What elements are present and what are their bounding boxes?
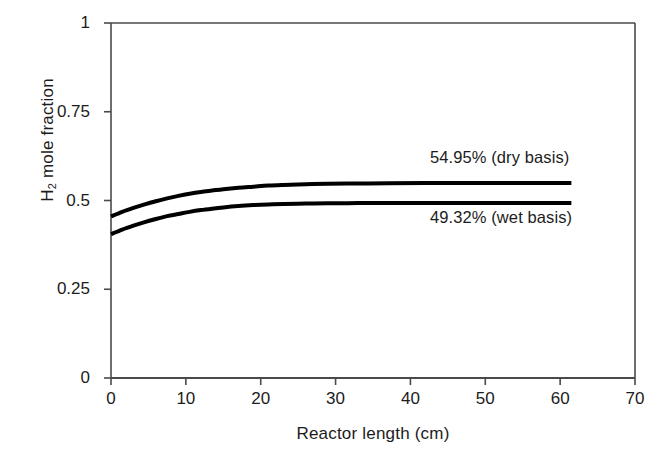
x-tick-label-20: 20: [236, 389, 286, 409]
y-axis-title-subscript: 2: [46, 183, 58, 189]
y-tick-label-0: 0: [20, 369, 90, 386]
chart-figure: H2 mole fraction Reactor length (cm) 00.…: [0, 0, 659, 468]
y-axis-title-rest: mole fraction: [38, 78, 57, 183]
x-tick-label-60: 60: [535, 389, 585, 409]
y-axis-title: H2 mole fraction: [38, 10, 58, 270]
y-tick-label-0.75: 0.75: [20, 103, 90, 120]
x-tick-label-50: 50: [460, 389, 510, 409]
x-tick-label-40: 40: [385, 389, 435, 409]
x-tick-label-30: 30: [311, 389, 361, 409]
x-tick-label-0: 0: [86, 389, 136, 409]
y-tick-label-0.5: 0.5: [20, 192, 90, 209]
wet-basis-annotation: 49.32% (wet basis): [430, 208, 572, 227]
x-tick-label-70: 70: [610, 389, 659, 409]
dry-basis-annotation: 54.95% (dry basis): [430, 148, 569, 167]
x-axis-title: Reactor length (cm): [111, 424, 635, 444]
x-tick-label-10: 10: [161, 389, 211, 409]
y-tick-label-1: 1: [20, 14, 90, 31]
y-tick-label-0.25: 0.25: [20, 280, 90, 297]
